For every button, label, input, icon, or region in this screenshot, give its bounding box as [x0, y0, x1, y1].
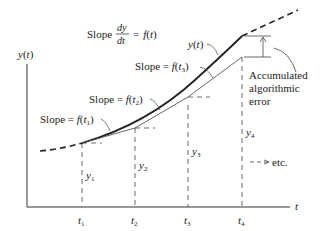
tick-t2: t2 [131, 214, 138, 228]
error-annotation: Accumulated algorithmic error [249, 69, 308, 107]
slope-label-t1: Slope = f(t1) [40, 113, 94, 127]
curve-label: y(t) [187, 38, 204, 51]
tick-t1: t1 [78, 214, 85, 228]
step-label-y4: y4 [245, 126, 255, 140]
svg-text:error: error [249, 95, 271, 107]
svg-text:dy: dy [117, 22, 127, 33]
slope-label-t2: Slope = f(t2) [89, 93, 143, 107]
step-label-y1: y1 [85, 169, 95, 183]
euler-diagram: y(t) t Slope dy dt =f(t) [0, 0, 328, 231]
svg-text:dt: dt [117, 35, 125, 46]
slope-label-t3: Slope = f(t3) [135, 60, 189, 74]
true-curve [82, 36, 242, 143]
svg-text:Accumulated: Accumulated [249, 69, 308, 81]
svg-text:algorithmic: algorithmic [249, 82, 300, 94]
curve-label-leader [207, 44, 218, 55]
vertical-guides [82, 57, 242, 207]
tick-t3: t3 [184, 214, 191, 228]
tick-t4: t4 [238, 214, 245, 228]
svg-text:etc.: etc. [272, 156, 288, 168]
slope-t1-leader [101, 119, 110, 131]
svg-text:=f(t): =f(t) [133, 28, 157, 41]
step-label-y2: y2 [138, 159, 148, 173]
svg-text:Slope: Slope [87, 28, 112, 40]
step-label-y3: y3 [191, 145, 201, 159]
true-curve-leadin [40, 143, 82, 151]
t-axis-label: t [295, 200, 299, 212]
slope-equation: Slope dy dt =f(t) [87, 22, 157, 46]
error-bracket [244, 36, 296, 72]
y-axis-label: y(t) [17, 48, 34, 61]
etc-annotation: etc. [250, 156, 288, 168]
true-curve-continuation [242, 10, 298, 36]
